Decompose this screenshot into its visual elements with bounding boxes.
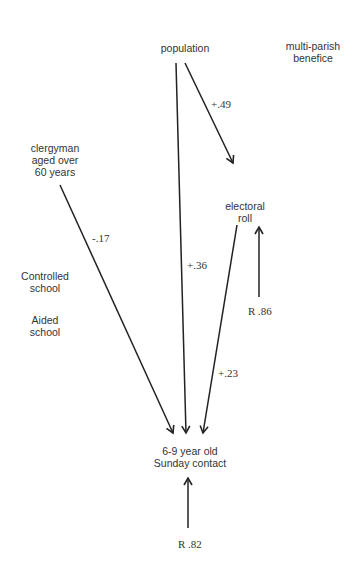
residual-outcome: R .82 <box>178 538 202 550</box>
arrow-roll-to-outcome <box>203 225 237 433</box>
node-multi-parish-benefice: multi-parish benefice <box>278 40 348 64</box>
node-electoral-roll: electoral roll <box>215 200 275 224</box>
arrow-clergy-to-outcome <box>60 185 173 433</box>
arrow-population-to-outcome <box>176 63 186 433</box>
arrow-population-to-roll <box>185 63 233 163</box>
residual-roll: R .86 <box>248 305 272 317</box>
node-aided-school: Aided school <box>10 314 80 338</box>
coef-population-outcome: +.36 <box>187 259 207 271</box>
node-population: population <box>140 42 230 54</box>
node-sunday-contact: 6-9 year old Sunday contact <box>140 445 240 469</box>
coef-roll-outcome: +.23 <box>218 367 238 379</box>
coef-population-roll: +.49 <box>211 98 231 110</box>
path-diagram: population multi-parish benefice clergym… <box>0 0 355 567</box>
node-controlled-school: Controlled school <box>10 270 80 294</box>
coef-clergy-outcome: -.17 <box>92 232 109 244</box>
node-clergyman-aged-over-60: clergyman aged over 60 years <box>15 142 95 178</box>
